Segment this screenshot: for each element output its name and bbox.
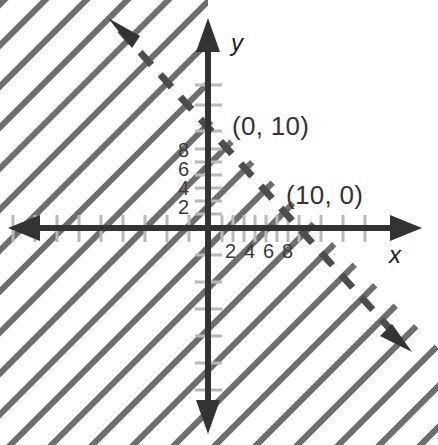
x-intercept-annotation: (10, 0) (286, 180, 363, 211)
y-tick-label-2: 2 (178, 196, 189, 219)
x-tick-label-8: 8 (282, 240, 293, 263)
x-axis-label: x (389, 241, 401, 269)
x-tick-label-2: 2 (225, 240, 236, 263)
x-tick-label-6: 6 (263, 240, 274, 263)
x-tick-label-4: 4 (244, 240, 255, 263)
y-intercept-annotation: (0, 10) (232, 111, 309, 142)
y-axis-label: y (231, 29, 243, 57)
graph-figure: y x 8 6 4 2 2 4 6 8 (0, 10) (10, 0) (0, 0, 438, 445)
coordinate-plane-svg (0, 0, 438, 445)
shaded-region (0, 0, 438, 445)
